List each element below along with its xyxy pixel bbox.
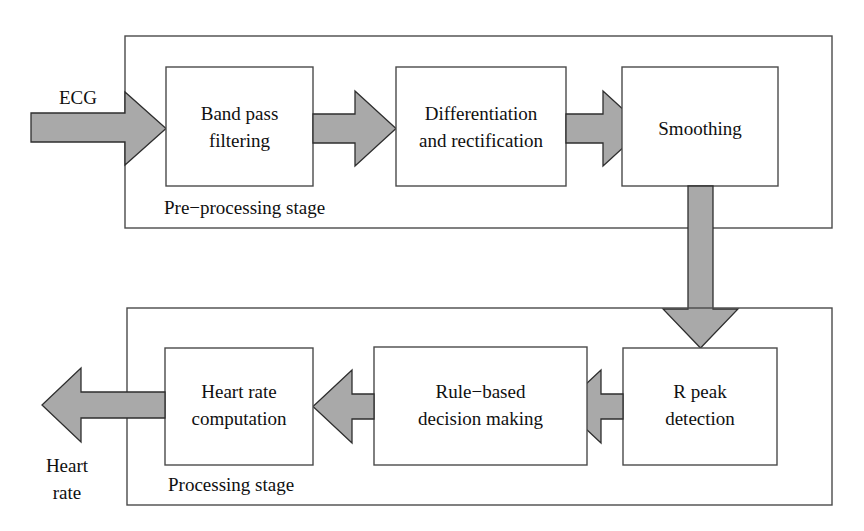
block-label-differentiation-line1: Differentiation	[425, 103, 538, 124]
flowchart-diagram: ECG Band pass filtering Differentiation …	[0, 0, 864, 531]
arrow-heart-rate-output	[42, 368, 165, 442]
block-band-pass-filtering	[166, 67, 313, 186]
stage-label-processing: Processing stage	[168, 474, 294, 495]
block-label-heart-rate-computation-line2: computation	[192, 408, 287, 429]
flowchart-canvas: ECG Band pass filtering Differentiation …	[0, 0, 864, 531]
block-label-rule-based-line1: Rule−based	[436, 381, 526, 402]
arrow-ecg-to-band-pass	[31, 92, 166, 165]
block-label-band-pass-filtering-line2: filtering	[209, 130, 271, 151]
block-label-r-peak-line2: detection	[665, 408, 735, 429]
output-label-heart-rate-line2: rate	[53, 482, 81, 503]
input-label-ecg: ECG	[59, 87, 97, 108]
block-heart-rate-computation	[165, 348, 313, 465]
block-label-rule-based-line2: decision making	[418, 408, 544, 429]
arrow-smoothing-to-r-peak	[663, 186, 738, 348]
arrow-rule-based-to-heart-rate-computation	[313, 370, 374, 443]
block-label-heart-rate-computation-line1: Heart rate	[201, 381, 276, 402]
block-label-r-peak-line1: R peak	[673, 381, 727, 402]
output-label-heart-rate-line1: Heart	[46, 455, 89, 476]
block-label-band-pass-filtering-line1: Band pass	[201, 103, 279, 124]
block-label-smoothing-line1: Smoothing	[658, 118, 742, 139]
stage-label-pre-processing: Pre−processing stage	[164, 197, 325, 218]
arrow-band-pass-to-differentiation	[313, 91, 396, 166]
block-differentiation-rectification	[396, 67, 566, 186]
block-label-differentiation-line2: and rectification	[419, 130, 543, 151]
block-rule-based-decision-making	[374, 347, 587, 465]
block-r-peak-detection	[623, 348, 777, 465]
